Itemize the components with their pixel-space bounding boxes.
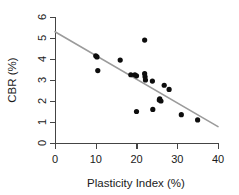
x-tick-label: 10 (90, 153, 102, 165)
y-tick-label: 1 (36, 119, 48, 125)
y-tick-label: 2 (36, 98, 48, 104)
data-point (195, 117, 200, 122)
data-point (143, 77, 148, 82)
y-tick-label: 3 (36, 77, 48, 83)
data-point (142, 38, 147, 43)
scatter-plot: 0123456 010203040 Plasticity Index (%) C… (0, 0, 239, 195)
y-tick-label: 4 (36, 56, 48, 62)
data-point (150, 78, 155, 83)
data-point (167, 87, 172, 92)
data-point (150, 107, 155, 112)
data-point (179, 112, 184, 117)
x-axis-title: Plasticity Index (%) (87, 177, 185, 189)
y-tick-label: 0 (36, 140, 48, 146)
data-point (94, 54, 99, 59)
y-axis-title: CBR (%) (6, 57, 18, 103)
data-point (134, 73, 139, 78)
y-tick-label: 6 (36, 14, 48, 20)
x-tick-label: 20 (130, 153, 142, 165)
data-point (95, 68, 100, 73)
y-tick-label: 5 (36, 35, 48, 41)
x-tick-label: 0 (52, 153, 58, 165)
data-point (134, 109, 139, 114)
data-point (118, 57, 123, 62)
x-tick-label: 30 (171, 153, 183, 165)
x-tick-label: 40 (212, 153, 224, 165)
data-point (162, 83, 167, 88)
data-point (158, 98, 163, 103)
chart-figure: 0123456 010203040 Plasticity Index (%) C… (0, 0, 239, 195)
plot-background (0, 0, 239, 195)
